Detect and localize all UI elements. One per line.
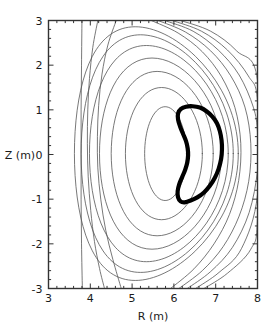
x-tick-label: 5: [129, 292, 136, 305]
x-tick-label: 7: [212, 292, 219, 305]
x-tick-label: 6: [170, 292, 177, 305]
y-tick-label: -2: [32, 238, 43, 251]
x-tick-label: 8: [254, 292, 261, 305]
y-tick-label: -3: [32, 283, 43, 296]
plot-canvas: 345678-3-2-10123 R (m) Z (m): [0, 0, 278, 329]
x-tick-label: 3: [45, 292, 52, 305]
x-axis-label: R (m): [138, 310, 168, 323]
y-tick-label: 0: [36, 149, 43, 162]
y-tick-label: -1: [32, 193, 43, 206]
y-tick-label: 3: [36, 15, 43, 28]
x-tick-label: 4: [87, 292, 94, 305]
y-tick-label: 2: [36, 59, 43, 72]
figure-background: [0, 0, 278, 329]
y-tick-label: 1: [36, 104, 43, 117]
y-axis-label: Z (m): [5, 149, 35, 162]
flux-surface-plot: 345678-3-2-10123 R (m) Z (m): [0, 0, 278, 329]
